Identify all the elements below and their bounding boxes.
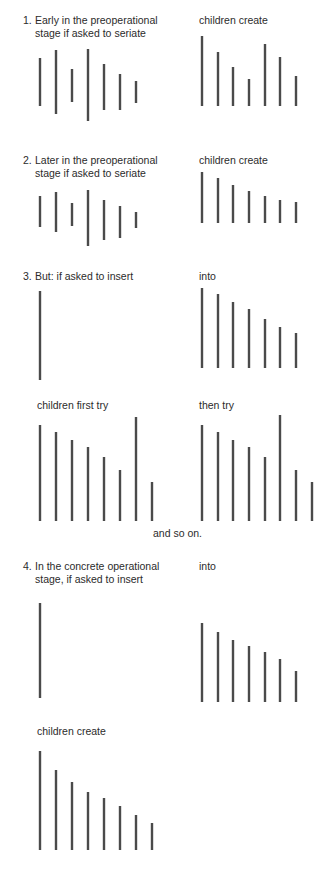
section-number: 4. (23, 560, 35, 573)
section-2-label: 2.Later in the preoperational stage if a… (23, 154, 158, 179)
children-first-try-label: children first try (37, 399, 108, 412)
s1-children-create-sticks (202, 36, 296, 106)
section-text-line2: stage if asked to seriate (23, 27, 158, 40)
section-2-result-label: children create (199, 154, 268, 167)
section-text-line1: But: if asked to insert (35, 270, 133, 282)
section-4-into-label: into (199, 560, 216, 573)
section-3-label: 3.But: if asked to insert (23, 270, 133, 283)
section-text-line1: In the concrete operational (35, 560, 159, 572)
s1-asked-to-seriate-sticks (40, 49, 136, 121)
seriation-diagram (0, 0, 333, 871)
section-3-into-label: into (199, 270, 216, 283)
then-try-label: then try (199, 399, 234, 412)
section-number: 1. (23, 14, 35, 27)
section-1-result-label: children create (199, 14, 268, 27)
section-text-line1: Later in the preoperational (35, 154, 158, 166)
section-text-line2: stage, if asked to insert (23, 573, 159, 586)
s4-children-create-sticks (40, 751, 152, 850)
s2-asked-to-seriate-sticks (40, 190, 136, 246)
section-number: 2. (23, 154, 35, 167)
section-number: 3. (23, 270, 35, 283)
s2-children-create-sticks (202, 172, 296, 223)
s3-children-first-try-sticks (40, 417, 152, 521)
section-1-label: 1.Early in the preoperational stage if a… (23, 14, 158, 39)
and-so-on-label: and so on. (153, 527, 202, 540)
section-4-label: 4.In the concrete operational stage, if … (23, 560, 159, 585)
s3-into-series-sticks (202, 288, 296, 368)
s3-then-try-sticks (202, 415, 312, 521)
section-text-line1: Early in the preoperational (35, 14, 158, 26)
section-4-children-create-label: children create (37, 725, 106, 738)
section-text-line2: stage if asked to seriate (23, 167, 158, 180)
s4-into-series-sticks (202, 623, 296, 702)
